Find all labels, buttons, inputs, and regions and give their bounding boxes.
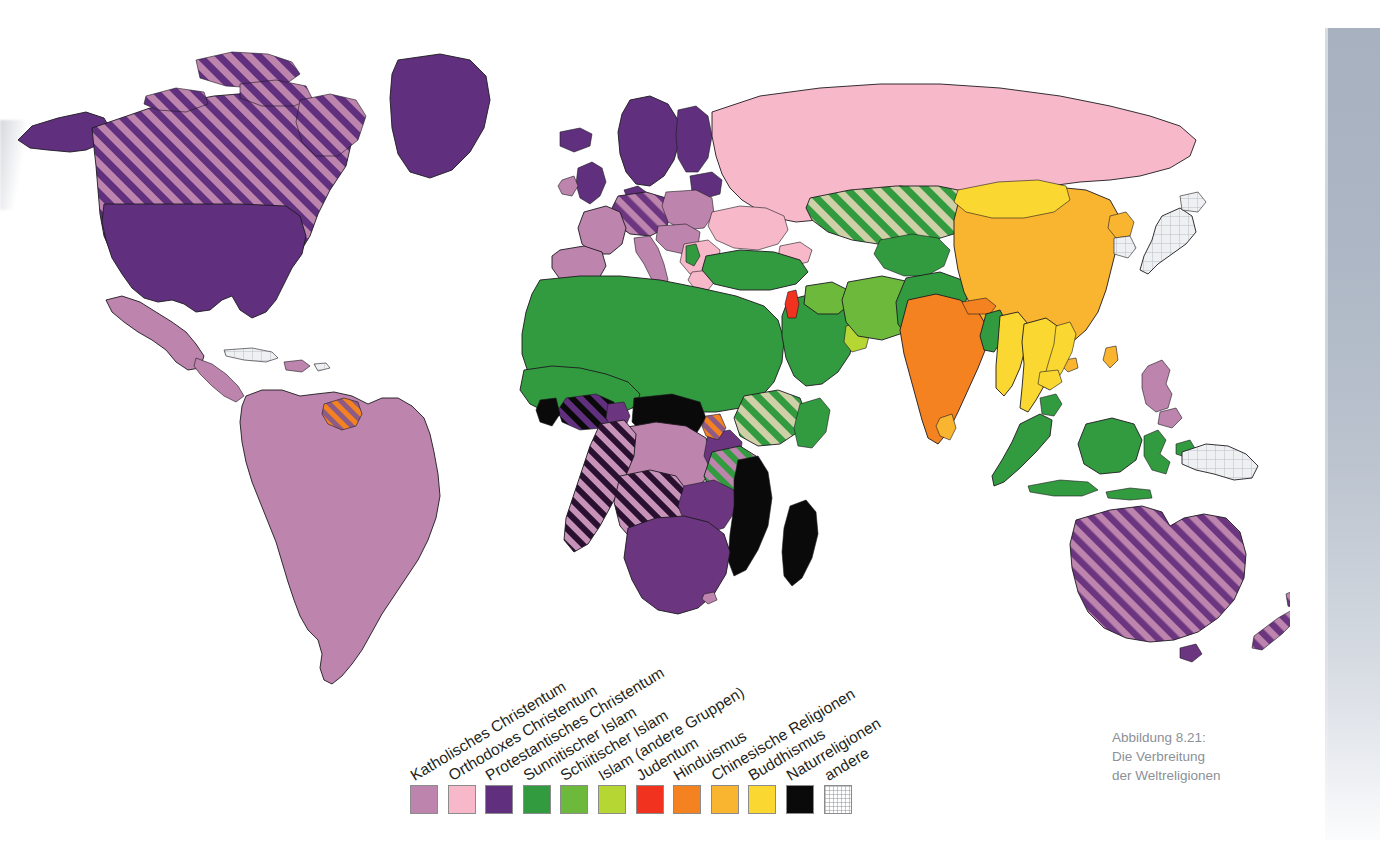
legend-swatch-10 [748,785,776,814]
figure-caption: Abbildung 8.21: Die Verbreitung der Welt… [1112,728,1312,785]
region-central-asia [874,234,950,276]
region-sulawesi [1144,430,1170,474]
region-java [1028,480,1098,496]
legend-swatch-12 [824,785,852,814]
region-puerto-rico [314,363,330,371]
region-iceland [560,128,592,152]
legend-swatch-9 [711,785,739,814]
legend-swatch-6 [598,785,626,814]
region-south-korea [1114,236,1136,258]
region-ukraine [708,206,788,250]
region-poland [662,190,714,230]
region-japan [1140,208,1196,274]
legend-swatch-7 [636,785,664,814]
region-ethiopia [734,390,806,446]
legend-swatch-5 [560,785,588,814]
region-madagascar [782,500,818,586]
region-papua-new-guinea [1182,444,1258,480]
region-mindanao [1158,408,1182,428]
map-svg [0,0,1290,700]
caption-line-1: Abbildung 8.21: [1112,728,1312,747]
caption-line-3: der Weltreligionen [1112,766,1312,785]
region-hispaniola [284,360,310,372]
region-hokkaido [1180,192,1206,212]
region-sumatra [992,414,1052,486]
world-religion-map [0,0,1290,700]
region-central-america [194,358,244,402]
page-margin-bar [1325,28,1380,840]
legend-swatch-11 [786,785,814,814]
legend-swatch-4 [523,785,551,814]
region-malaysia [1040,394,1062,416]
region-australia [1070,506,1246,642]
figure-page: Katholisches ChristentumOrthodoxes Chris… [0,0,1380,864]
legend-swatch-8 [673,785,701,814]
legend-labels: Katholisches ChristentumOrthodoxes Chris… [0,640,1000,790]
region-baffin-island [296,94,366,156]
legend-swatch-1 [410,785,438,814]
region-borneo [1078,418,1142,474]
region-cuba [224,348,278,362]
region-lesser-sunda [1106,488,1152,500]
caption-line-2: Die Verbreitung [1112,747,1312,766]
legend-swatch-2 [448,785,476,814]
region-taiwan [1103,346,1118,368]
region-ghana-togo [536,398,560,426]
region-somalia [794,398,830,448]
region-new-zealand-south [1252,610,1290,650]
legend-swatch-3 [485,785,513,814]
region-greenland [390,54,490,178]
map-legend: Katholisches ChristentumOrthodoxes Chris… [0,640,1000,840]
region-finland [676,106,712,172]
region-philippines [1142,360,1172,412]
region-israel [785,290,799,318]
region-united-kingdom [576,162,606,204]
region-new-zealand [1286,588,1290,610]
region-tasmania [1180,644,1202,662]
region-scandinavia [618,96,680,186]
region-ireland [558,176,578,196]
